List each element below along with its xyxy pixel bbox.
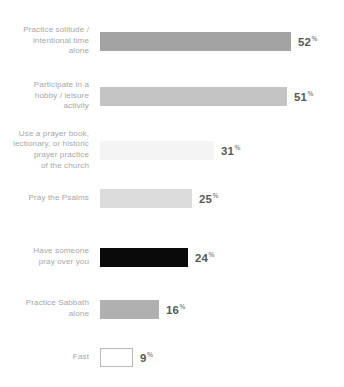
category-label: Practice Sabbath alone — [0, 298, 100, 319]
bar — [100, 87, 287, 106]
value-number: 25 — [199, 192, 212, 204]
value-number: 51 — [294, 90, 307, 102]
bar-area: 31% — [100, 122, 344, 178]
value-label: 16% — [166, 303, 186, 316]
bar-area: 16% — [100, 292, 344, 326]
chart-row: Practice Sabbath alone 16% — [0, 292, 344, 326]
bar-area: 24% — [100, 240, 344, 274]
value-label: 31% — [221, 144, 241, 157]
percent-symbol: % — [312, 35, 318, 42]
chart-row: Pray the Psalms 25% — [0, 186, 344, 210]
chart-row: Use a prayer book, lectionary, or histor… — [0, 122, 344, 178]
value-label: 25% — [199, 192, 219, 205]
value-label: 24% — [195, 251, 215, 264]
bar — [100, 348, 133, 367]
percent-symbol: % — [308, 90, 314, 97]
category-label: Pray the Psalms — [0, 193, 100, 204]
bar — [100, 300, 159, 319]
chart-row: Have someone pray over you 24% — [0, 240, 344, 274]
chart-row: Fast 9% — [0, 344, 344, 370]
percent-symbol: % — [209, 251, 215, 258]
horizontal-bar-chart: Practice solitude / intentional time alo… — [0, 0, 344, 387]
chart-row: Practice solitude / intentional time alo… — [0, 18, 344, 64]
bar — [100, 141, 214, 160]
category-label: Fast — [0, 352, 100, 363]
value-number: 31 — [221, 144, 234, 156]
bar-area: 51% — [100, 73, 344, 119]
value-number: 16 — [166, 303, 179, 315]
percent-symbol: % — [180, 303, 186, 310]
bar — [100, 32, 291, 51]
category-label: Practice solitude / intentional time alo… — [0, 25, 100, 57]
value-number: 9 — [140, 351, 147, 363]
category-label: Have someone pray over you — [0, 246, 100, 267]
value-label: 9% — [140, 351, 153, 364]
bar — [100, 248, 188, 267]
category-label: Use a prayer book, lectionary, or histor… — [0, 129, 100, 171]
bar-area: 9% — [100, 344, 344, 370]
percent-symbol: % — [235, 144, 241, 151]
bar — [100, 189, 192, 208]
percent-symbol: % — [213, 192, 219, 199]
percent-symbol: % — [147, 351, 153, 358]
value-number: 24 — [195, 251, 208, 263]
value-number: 52 — [298, 35, 311, 47]
value-label: 51% — [294, 90, 314, 103]
value-label: 52% — [298, 35, 318, 48]
chart-row: Participate in a hobby / leisure activit… — [0, 73, 344, 119]
bar-area: 52% — [100, 18, 344, 64]
bar-area: 25% — [100, 186, 344, 210]
category-label: Participate in a hobby / leisure activit… — [0, 80, 100, 112]
